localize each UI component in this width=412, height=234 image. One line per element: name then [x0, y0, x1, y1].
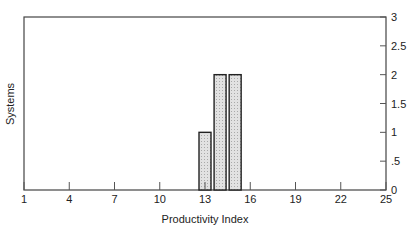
bars — [199, 75, 241, 190]
x-tick-label: 19 — [289, 193, 301, 205]
bar — [229, 75, 241, 190]
y-tick-label: 2.5 — [391, 40, 406, 52]
y-axis-label: Systems — [4, 82, 16, 125]
y-tick-label: .5 — [391, 155, 400, 167]
x-tick-label: 13 — [199, 193, 211, 205]
x-tick-label: 4 — [66, 193, 72, 205]
y-tick-label: 2 — [391, 69, 397, 81]
x-axis-label: Productivity Index — [162, 213, 249, 225]
histogram-chart: 147101316192225 0.511.522.53 Productivit… — [0, 0, 412, 234]
y-tick-label: 0 — [391, 184, 397, 196]
y-tick-label: 1.5 — [391, 98, 406, 110]
x-tick-label: 1 — [21, 193, 27, 205]
y-tick-label: 1 — [391, 126, 397, 138]
x-tick-label: 22 — [335, 193, 347, 205]
bar — [199, 132, 211, 190]
y-tick-label: 3 — [391, 11, 397, 23]
bar — [214, 75, 226, 190]
y-axis-ticks: 0.511.522.53 — [380, 11, 406, 196]
x-tick-label: 10 — [154, 193, 166, 205]
x-tick-label: 16 — [244, 193, 256, 205]
x-tick-label: 7 — [111, 193, 117, 205]
